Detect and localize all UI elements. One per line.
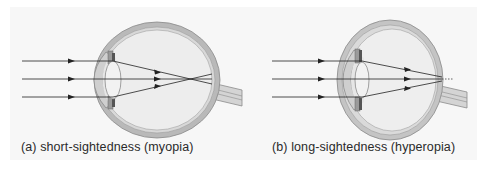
caption-myopia: (a) short-sightedness (myopia)	[21, 140, 194, 154]
ciliary-bottom	[359, 98, 362, 110]
figure-myopia: (a) short-sightedness (myopia)	[0, 0, 243, 171]
caption-hyperopia: (b) long-sightedness (hyperopia)	[272, 140, 455, 154]
figure-hyperopia: (b) long-sightedness (hyperopia)	[242, 0, 485, 171]
ciliary-top	[359, 50, 362, 62]
lens	[105, 61, 121, 99]
lens	[355, 62, 369, 98]
